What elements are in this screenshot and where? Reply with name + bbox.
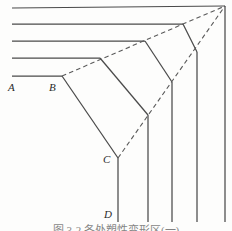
horizontal-ray-group xyxy=(12,6,225,76)
connector-arc-c4 xyxy=(183,24,197,52)
vertical-ray-group xyxy=(118,6,225,222)
vertex-label-a: A xyxy=(8,82,15,93)
horizontal-ray-h1 xyxy=(12,6,225,8)
figure-container: A B C D 图 3-2 各处塑性变形区(一) xyxy=(0,0,232,231)
dashed-boundary-group xyxy=(62,6,225,158)
plastic-zone-diagram xyxy=(0,0,232,231)
figure-caption-strip: 图 3-2 各处塑性变形区(一) xyxy=(0,222,232,231)
connector-arc-c1 xyxy=(62,76,118,158)
connector-arc-c3 xyxy=(145,41,172,82)
vertex-label-b: B xyxy=(49,82,56,93)
figure-caption: 图 3-2 各处塑性变形区(一) xyxy=(0,222,232,231)
vertex-label-d: D xyxy=(104,209,112,220)
vertex-label-c: C xyxy=(103,154,110,165)
connector-arc-group xyxy=(62,24,197,158)
connector-arc-c2 xyxy=(100,58,148,115)
